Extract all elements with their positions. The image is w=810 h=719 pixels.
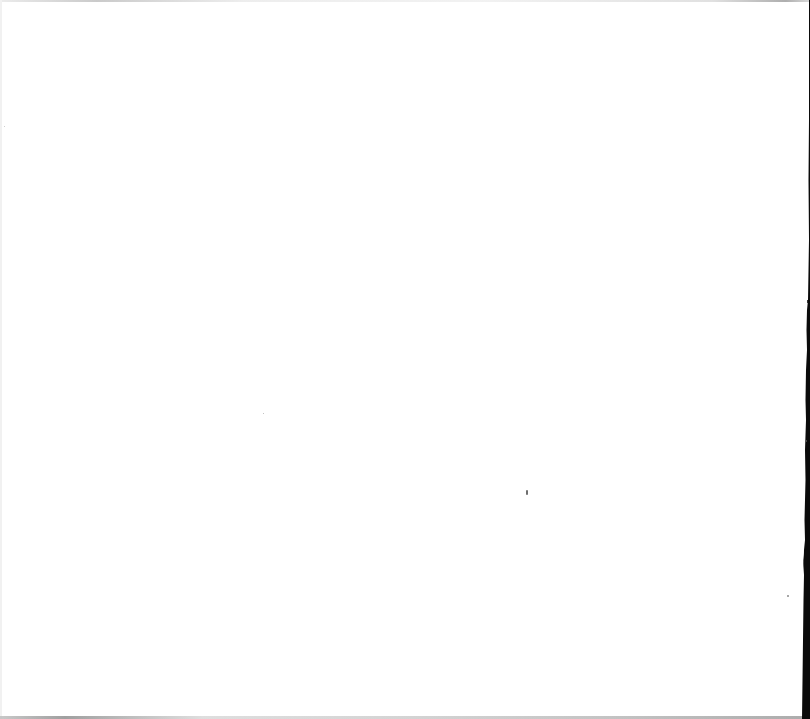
scanner-shadow-right	[794, 0, 810, 719]
left-edge-line	[0, 0, 2, 719]
dust-speck	[4, 126, 5, 127]
top-edge-line	[0, 0, 810, 2]
scanned-page	[0, 0, 810, 719]
dust-speck	[526, 490, 528, 495]
dust-speck	[787, 595, 789, 597]
blank-paper	[0, 0, 800, 719]
dust-speck	[263, 413, 264, 414]
